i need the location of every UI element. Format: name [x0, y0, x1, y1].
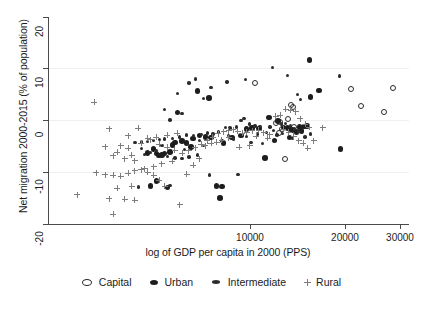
data-point-rural	[311, 138, 317, 144]
data-point-intermediate	[208, 173, 211, 176]
data-point-urban	[219, 184, 225, 190]
data-point-intermediate	[275, 133, 278, 136]
data-point-intermediate	[194, 77, 197, 80]
x-axis-title: log of GDP per capita in 2000 (PPS)	[48, 246, 408, 258]
data-point-urban	[266, 115, 272, 121]
data-point-intermediate	[338, 74, 341, 77]
data-point-intermediate	[303, 135, 306, 138]
data-point-urban	[316, 88, 322, 94]
data-point-rural	[129, 152, 135, 158]
data-point-capital	[390, 85, 396, 91]
y-tick-label-neg20: -20	[34, 224, 45, 254]
x-tick-label-20000: 20000	[315, 232, 375, 243]
data-point-rural	[162, 183, 168, 189]
data-point-rural	[196, 156, 202, 162]
data-point-rural	[192, 145, 198, 151]
data-point-rural	[74, 192, 80, 198]
data-point-rural	[106, 126, 112, 132]
data-point-rural	[305, 145, 311, 151]
data-point-intermediate	[280, 122, 283, 125]
data-point-intermediate	[268, 125, 271, 128]
data-point-intermediate	[297, 129, 300, 132]
y-tick-label-10: 10	[34, 68, 45, 98]
data-point-intermediate	[149, 151, 152, 154]
data-point-rural	[91, 99, 97, 105]
data-point-intermediate	[296, 93, 299, 96]
data-point-rural	[118, 143, 124, 149]
data-point-rural	[106, 196, 112, 202]
open-circle-icon	[82, 279, 92, 286]
data-point-capital	[282, 156, 288, 162]
data-point-rural	[145, 135, 151, 141]
data-point-capital	[252, 80, 258, 86]
data-point-rural	[293, 109, 299, 115]
data-point-capital	[381, 109, 387, 115]
x-tick-label-10000: 10000	[220, 232, 280, 243]
legend-label-intermediate: Intermediate	[228, 276, 286, 288]
plus-icon	[303, 278, 311, 286]
data-point-rural	[122, 196, 128, 202]
data-point-rural	[153, 134, 159, 140]
chart-legend: Capital Urban Intermediate Rural	[0, 276, 422, 288]
data-point-intermediate	[293, 127, 296, 130]
data-point-rural	[164, 132, 170, 138]
y-tick-label-20: 20	[34, 17, 45, 47]
legend-item-intermediate[interactable]: Intermediate	[210, 276, 286, 288]
data-point-rural	[277, 112, 283, 118]
data-point-intermediate	[248, 122, 251, 125]
data-point-rural	[169, 158, 175, 164]
data-point-intermediate	[299, 98, 302, 101]
data-point-intermediate	[171, 137, 174, 140]
data-point-intermediate	[168, 184, 171, 187]
data-point-rural	[110, 211, 116, 217]
data-point-intermediate	[185, 133, 188, 136]
data-point-rural	[174, 130, 180, 136]
data-point-intermediate	[137, 185, 140, 188]
y-tick-label-0: 0	[34, 120, 45, 150]
data-point-rural	[102, 172, 108, 178]
legend-item-capital[interactable]: Capital	[81, 276, 132, 288]
data-point-intermediate	[206, 131, 209, 134]
data-point-intermediate	[242, 117, 245, 120]
data-point-intermediate	[244, 78, 247, 81]
data-point-rural	[265, 135, 271, 141]
data-point-rural	[142, 166, 148, 172]
data-point-intermediate	[225, 80, 228, 83]
data-point-rural	[190, 162, 196, 168]
data-point-rural	[156, 141, 162, 147]
data-point-intermediate	[309, 132, 312, 135]
data-point-rural	[138, 140, 144, 146]
data-point-rural	[125, 133, 131, 139]
data-point-intermediate	[168, 118, 171, 121]
data-point-urban	[307, 57, 313, 63]
data-point-rural	[164, 144, 170, 150]
data-point-rural	[132, 197, 138, 203]
data-point-rural	[172, 147, 178, 153]
data-point-urban	[338, 146, 344, 152]
data-point-rural	[219, 137, 225, 143]
data-point-rural	[132, 168, 138, 174]
legend-item-urban[interactable]: Urban	[149, 276, 194, 288]
legend-label-capital: Capital	[99, 276, 132, 288]
data-point-rural	[125, 145, 131, 151]
data-point-intermediate	[176, 92, 179, 95]
data-point-urban	[148, 183, 154, 189]
data-point-intermediate	[163, 108, 166, 111]
data-point-rural	[129, 183, 135, 189]
data-point-rural	[186, 148, 192, 154]
data-point-intermediate	[187, 155, 190, 158]
legend-item-rural[interactable]: Rural	[303, 276, 341, 288]
data-point-rural	[132, 158, 138, 164]
data-point-intermediate	[180, 157, 183, 160]
data-point-intermediate	[187, 81, 190, 84]
data-point-rural	[151, 164, 157, 170]
data-point-rural	[114, 185, 120, 191]
data-point-rural	[306, 124, 312, 130]
data-point-rural	[179, 150, 185, 156]
data-point-intermediate	[261, 142, 264, 145]
data-point-intermediate	[232, 137, 235, 140]
data-point-rural	[125, 170, 131, 176]
data-point-rural	[177, 202, 183, 208]
data-point-intermediate	[192, 134, 195, 137]
filled-circle-icon	[150, 280, 158, 285]
